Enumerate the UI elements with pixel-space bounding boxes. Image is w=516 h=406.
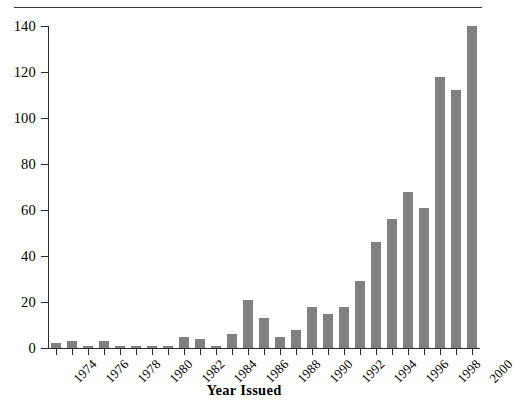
- x-axis-tick-label: 1978: [135, 357, 163, 385]
- x-axis-tick: [56, 349, 57, 355]
- x-axis-tick: [200, 349, 201, 355]
- x-axis-tick: [232, 349, 233, 355]
- bar: [83, 346, 93, 348]
- bar: [243, 300, 253, 348]
- y-axis-tick-label: 80: [21, 157, 36, 172]
- bar: [51, 343, 61, 348]
- x-axis-tick: [392, 349, 393, 355]
- x-axis-tick: [248, 349, 249, 355]
- bar: [323, 314, 333, 349]
- x-axis-tick-label: 1988: [295, 357, 323, 385]
- x-axis-tick: [72, 349, 73, 355]
- x-axis-tick: [120, 349, 121, 355]
- x-axis-tick: [328, 349, 329, 355]
- x-axis-tick: [376, 349, 377, 355]
- bar: [291, 330, 301, 348]
- x-axis-title: Year Issued: [0, 382, 488, 399]
- x-axis-tick: [424, 349, 425, 355]
- x-axis-tick-label: 1998: [455, 357, 483, 385]
- y-axis-tick: [41, 256, 48, 257]
- bar: [67, 341, 77, 348]
- bar: [195, 339, 205, 348]
- y-axis-tick-label: 20: [21, 295, 36, 310]
- bar: [211, 346, 221, 348]
- x-axis-tick: [264, 349, 265, 355]
- bar: [147, 346, 157, 348]
- x-axis-tick: [296, 349, 297, 355]
- bar: [451, 90, 461, 348]
- x-axis-tick: [152, 349, 153, 355]
- bar: [227, 334, 237, 348]
- bar: [355, 281, 365, 348]
- y-axis-tick: [41, 72, 48, 73]
- y-axis-tick: [41, 210, 48, 211]
- x-axis-tick-label: 1986: [263, 357, 291, 385]
- x-axis-tick: [104, 349, 105, 355]
- bar: [435, 77, 445, 348]
- y-axis-tick: [41, 164, 48, 165]
- x-axis-tick-label: 1990: [327, 357, 355, 385]
- bar: [163, 346, 173, 348]
- top-horizontal-rule: [14, 7, 482, 8]
- bar: [275, 337, 285, 349]
- x-axis-tick: [408, 349, 409, 355]
- x-axis-tick: [280, 349, 281, 355]
- bar: [371, 242, 381, 348]
- x-axis-tick: [88, 349, 89, 355]
- bar: [259, 318, 269, 348]
- y-axis-tick-label: 0: [29, 341, 36, 356]
- y-axis-tick: [41, 26, 48, 27]
- bar: [179, 337, 189, 349]
- x-axis-tick: [344, 349, 345, 355]
- x-axis-tick-label: 1974: [71, 357, 99, 385]
- bar: [419, 208, 429, 348]
- y-axis-tick-label: 120: [14, 65, 36, 80]
- x-axis-tick: [168, 349, 169, 355]
- y-axis-tick-label: 100: [14, 111, 36, 126]
- x-axis-tick-label: 1980: [167, 357, 195, 385]
- x-axis-tick: [136, 349, 137, 355]
- bar: [115, 346, 125, 348]
- x-axis-tick-label: 2000: [487, 357, 515, 385]
- x-axis-tick: [440, 349, 441, 355]
- x-axis-tick: [456, 349, 457, 355]
- y-axis-tick-label: 60: [21, 203, 36, 218]
- bar: [339, 307, 349, 348]
- y-axis-tick: [41, 348, 48, 349]
- x-axis-tick: [360, 349, 361, 355]
- x-axis-tick: [472, 349, 473, 355]
- y-axis-tick-label: 40: [21, 249, 36, 264]
- x-axis-tick-label: 1994: [391, 357, 419, 385]
- bars-container: [48, 26, 480, 348]
- bar: [403, 192, 413, 348]
- y-axis-tick-label: 140: [14, 19, 36, 34]
- bar: [307, 307, 317, 348]
- y-axis-tick: [41, 302, 48, 303]
- x-axis-tick-label: 1992: [359, 357, 387, 385]
- bar: [131, 346, 141, 348]
- x-axis-tick-label: 1984: [231, 357, 259, 385]
- x-axis-tick-label: 1982: [199, 357, 227, 385]
- bar: [467, 26, 477, 348]
- bar: [99, 341, 109, 348]
- y-axis-tick: [41, 118, 48, 119]
- x-axis-tick: [312, 349, 313, 355]
- x-axis-tick: [184, 349, 185, 355]
- bar: [387, 219, 397, 348]
- x-axis-tick: [216, 349, 217, 355]
- x-axis-tick-label: 1996: [423, 357, 451, 385]
- x-axis-tick-label: 1976: [103, 357, 131, 385]
